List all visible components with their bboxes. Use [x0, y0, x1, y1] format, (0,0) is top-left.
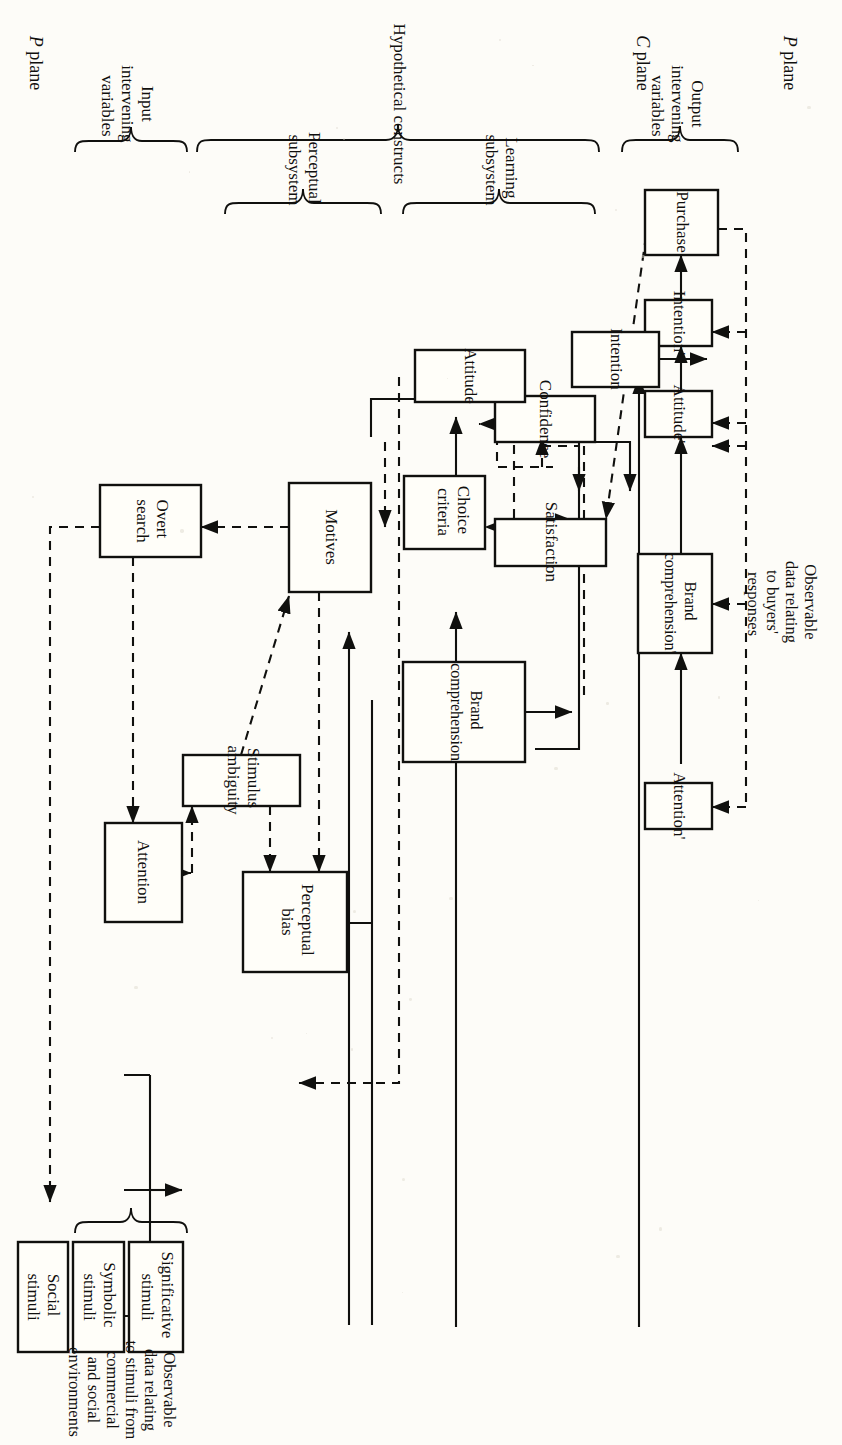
node-choice-criteria-label: Choice criteria [434, 486, 473, 538]
node-brand-comprehension[interactable]: Brand comprehension [403, 662, 525, 762]
howard-sheth-model-diagram: P plane C plane P plane Output interveni… [0, 0, 842, 1445]
node-perceptual-bias[interactable]: Perceptual bias [243, 872, 347, 972]
node-attention[interactable]: Attention [105, 823, 182, 922]
node-social-stimuli[interactable]: Social stimuli [18, 1242, 68, 1352]
node-motives-label: Motives [322, 509, 341, 565]
node-social-stimuli-label: Social stimuli [24, 1273, 63, 1321]
node-confidence-label: Confidence [536, 380, 555, 458]
node-intention-prime-label: Intention' [670, 291, 689, 355]
node-intention-label: Intention [607, 328, 626, 390]
plane-label-p-top: P plane [780, 35, 800, 90]
annotation-stimuli-sources: Observable data relating to stimuli from… [65, 1340, 179, 1443]
node-significative-stimuli[interactable]: Significative stimuli [129, 1242, 183, 1352]
node-attitude-prime[interactable]: Attitude' [645, 385, 712, 444]
node-attention-prime[interactable]: Attention' [645, 772, 712, 839]
group-label-learning-subsystem: Learning subsystem [482, 135, 521, 206]
node-symbolic-stimuli[interactable]: Symbolic stimuli [73, 1242, 124, 1352]
node-attitude-label: Attitude [461, 348, 480, 404]
node-attitude[interactable]: Attitude [415, 348, 525, 404]
node-motives[interactable]: Motives [289, 483, 371, 592]
node-overt-search[interactable]: Overt search [100, 485, 201, 557]
node-choice-criteria[interactable]: Choice criteria [404, 476, 485, 549]
node-satisfaction-label: Satisfaction [542, 502, 561, 583]
group-label-hypothetical-constructs: Hypothetical constructs [390, 24, 409, 185]
rotated-figure-wrapper: P plane C plane P plane Output interveni… [0, 0, 842, 1445]
node-brand-comprehension-prime[interactable]: Brand comprehension' [638, 553, 712, 654]
node-purchase-label: Purchase [673, 191, 692, 252]
node-overt-search-label: Overt search [133, 499, 172, 543]
group-label-perceptual-subsystem: Perceptual subsystem [285, 132, 324, 208]
annotation-buyers-responses: Observable data relating to buyers' resp… [744, 561, 820, 647]
node-stimulus-ambiguity-label: Stimulus ambiguity [224, 746, 263, 815]
node-attention-prime-label: Attention' [670, 772, 689, 839]
plane-label-p-bottom: P plane [26, 35, 46, 90]
node-attitude-prime-label: Attitude' [670, 385, 689, 444]
node-purchase[interactable]: Purchase [645, 190, 718, 255]
node-attention-label: Attention [134, 840, 153, 905]
node-stimulus-ambiguity[interactable]: Stimulus ambiguity [183, 746, 300, 815]
node-intention[interactable]: Intention [572, 328, 659, 390]
